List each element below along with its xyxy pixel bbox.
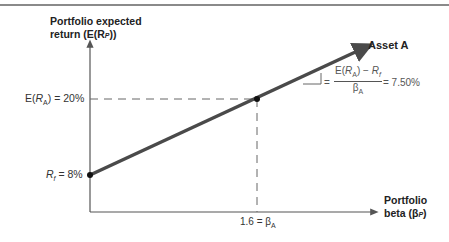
x-axis-title: Portfolio beta (βP) xyxy=(384,194,427,221)
asset-a-point xyxy=(254,96,260,102)
asset-a-line xyxy=(90,48,364,175)
y-tick-risk-free: Rf = 8% xyxy=(46,168,83,182)
y-tick-expected-return: E(RA) = 20% xyxy=(25,92,84,106)
y-axis-title: Portfolio expected return (E(RP)) xyxy=(50,15,142,42)
x-tick-beta: 1.6 = βA xyxy=(240,216,276,229)
slope-numerator: E(RA) − Rf xyxy=(334,65,382,82)
slope-fraction: E(RA) − Rf βA xyxy=(334,65,382,98)
asset-a-label: Asset A xyxy=(368,39,409,52)
rf-point xyxy=(87,172,93,178)
slope-denominator: βA xyxy=(334,82,382,98)
slope-equals: = xyxy=(324,77,330,88)
slope-result: = 7.50% xyxy=(383,77,420,88)
